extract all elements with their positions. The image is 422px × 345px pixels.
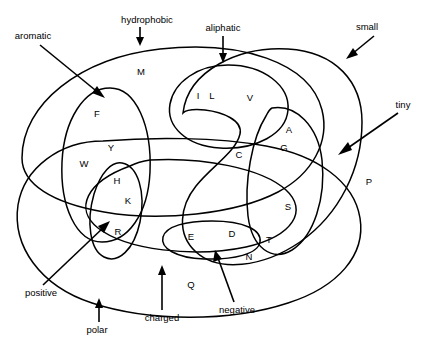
residue-C: C [236,149,243,160]
residue-I: I [197,90,200,101]
residue-K: K [125,195,132,206]
leader-line-tiny [345,113,398,150]
arrowhead-hydrophobic [136,37,144,46]
residue-N: N [246,251,253,262]
set-outline-aliphatic [169,65,288,148]
residue-E: E [188,231,194,242]
leader-tiny [338,113,398,155]
leader-line-aromatic [40,45,100,94]
residue-Y: Y [108,142,115,153]
residue-R: R [115,226,122,237]
leader-aliphatic [219,36,227,63]
set-outline-small [182,49,362,265]
group-label-positive: positive [25,287,57,298]
group-label-charged: charged [145,312,179,323]
residue-S: S [285,201,291,212]
arrowhead-aliphatic [219,53,227,63]
group-label-aliphatic: aliphatic [206,22,241,33]
residue-H: H [114,175,121,186]
residue-V: V [247,92,254,103]
leader-positive [43,221,110,285]
arrowhead-charged [158,265,166,275]
leader-aromatic [40,45,105,98]
group-label-group: aromatic hydrophobic aliphatic small tin… [15,14,411,335]
group-label-hydrophobic: hydrophobic [121,14,173,25]
leader-charged [158,265,166,310]
leader-polar [95,298,103,322]
set-outline-aromatic [62,88,150,242]
residue-D: D [229,228,236,239]
residue-M: M [137,66,145,77]
residue-T: T [266,234,272,245]
residue-L: L [209,90,214,101]
residue-label-group: M F I L V A Y G C W H P K S R E D T N Q [80,66,373,290]
residue-A: A [286,124,293,135]
arrowhead-tiny [338,142,352,155]
group-label-aromatic: aromatic [15,30,52,41]
arrowhead-aromatic [92,86,105,98]
venn-diagram-canvas: M F I L V A Y G C W H P K S R E D T N Q [0,0,422,345]
residue-F: F [94,108,100,119]
residue-P: P [366,176,372,187]
group-label-tiny: tiny [396,99,411,110]
residue-W: W [80,158,89,169]
group-label-polar: polar [86,324,107,335]
leader-small [346,36,374,59]
leader-hydrophobic [136,27,144,46]
residue-G: G [280,142,287,153]
leader-line-positive [43,227,104,285]
group-label-small: small [356,21,378,32]
arrowhead-polar [95,298,103,308]
group-label-negative: negative [219,304,255,315]
venn-diagram: M F I L V A Y G C W H P K S R E D T N Q [0,0,422,345]
residue-Q: Q [187,279,194,290]
